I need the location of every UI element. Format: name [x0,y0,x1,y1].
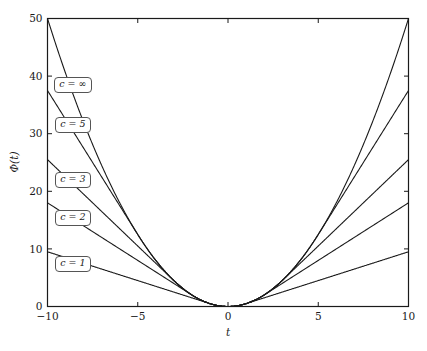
curve-c-∞ [48,19,409,307]
y-axis-tick-labels: 01020304050 [29,12,42,312]
series-label-2: c = 5 [55,117,90,133]
x-axis-ticks [48,19,409,307]
x-tick-label: −5 [130,310,145,322]
y-axis-title: Φ(t) [8,151,20,172]
data-curves [48,19,409,307]
x-axis-tick-labels: −10−50510 [36,310,415,322]
y-axis-ticks [48,19,409,307]
curve-c-2 [48,203,409,307]
y-tick-label: 20 [29,185,42,197]
axes-frame [48,19,409,307]
curve-c-1 [48,252,409,307]
x-tick-label: 10 [402,310,415,322]
y-tick-label: 40 [29,70,42,82]
y-tick-label: 10 [29,243,42,255]
series-label-1: c = ∞ [54,77,91,93]
series-label-4: c = 2 [55,210,90,226]
x-axis-title: t [226,326,231,338]
x-tick-label: 5 [315,310,322,322]
series-label-3: c = 3 [55,172,90,188]
curve-c-5 [48,91,409,307]
x-tick-label: 0 [225,310,232,322]
chart-figure: 01020304050 −10−50510 t Φ(t) c = ∞c = 5c… [0,0,427,351]
y-tick-label: 50 [29,12,42,24]
x-tick-label: −10 [36,310,58,322]
y-tick-label: 30 [29,127,42,139]
series-label-5: c = 1 [55,256,90,272]
curve-c-3 [48,160,409,307]
